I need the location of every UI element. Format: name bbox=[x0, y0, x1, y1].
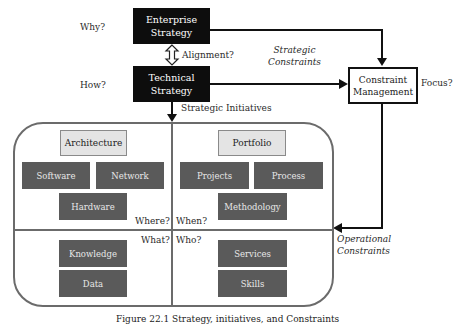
network-box: Network bbox=[96, 162, 164, 189]
what-label: What? bbox=[141, 235, 170, 245]
architecture-box: Architecture bbox=[60, 130, 127, 156]
where-label: Where? bbox=[135, 216, 170, 226]
operational-constraints-line bbox=[340, 227, 383, 229]
when-label: When? bbox=[176, 216, 207, 226]
technical-strategy-box: Technical Strategy bbox=[133, 66, 210, 102]
enterprise-constraint-line-vertical bbox=[381, 29, 383, 60]
process-box: Process bbox=[254, 162, 323, 189]
operational-constraints-line-vertical bbox=[381, 102, 383, 229]
methodology-box: Methodology bbox=[218, 193, 287, 220]
horizontal-divider bbox=[13, 229, 334, 231]
knowledge-box: Knowledge bbox=[59, 240, 127, 267]
software-box: Software bbox=[22, 162, 90, 189]
operational-constraints-label: Operational Constraints bbox=[337, 233, 391, 257]
alignment-label: Alignment? bbox=[182, 50, 234, 60]
strategic-initiatives-label: Strategic Initiatives bbox=[181, 103, 272, 113]
services-box: Services bbox=[218, 240, 287, 267]
data-box: Data bbox=[59, 270, 127, 297]
why-label: Why? bbox=[80, 22, 105, 32]
arrow-down-icon bbox=[377, 58, 387, 67]
vertical-divider bbox=[171, 122, 173, 307]
strategic-constraints-label: Strategic Constraints bbox=[268, 44, 321, 68]
double-arrow-icon bbox=[164, 44, 180, 66]
hardware-box: Hardware bbox=[59, 193, 127, 220]
portfolio-box: Portfolio bbox=[218, 130, 286, 156]
projects-box: Projects bbox=[180, 162, 249, 189]
how-label: How? bbox=[80, 80, 106, 90]
skills-box: Skills bbox=[218, 270, 287, 297]
figure-caption: Figure 22.1 Strategy, initiatives, and C… bbox=[116, 314, 339, 324]
who-label: Who? bbox=[176, 235, 201, 245]
focus-label: Focus? bbox=[421, 78, 452, 88]
technical-constraint-line bbox=[210, 83, 340, 85]
enterprise-constraint-line bbox=[210, 29, 383, 31]
enterprise-strategy-box: Enterprise Strategy bbox=[133, 8, 210, 44]
arrow-right-icon bbox=[339, 79, 348, 89]
arrow-left-icon bbox=[333, 223, 342, 233]
constraint-management-box: Constraint Management bbox=[348, 67, 418, 104]
